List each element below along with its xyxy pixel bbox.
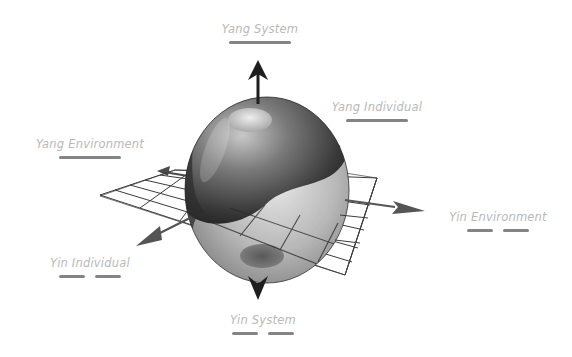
- yin-broken-line: [45, 275, 135, 278]
- label-yin-environment-text: Yin Environment: [436, 210, 560, 224]
- yang-solid-line: [28, 156, 152, 159]
- label-yang-environment: Yang Environment: [28, 137, 152, 159]
- label-yang-environment-text: Yang Environment: [28, 137, 152, 151]
- broken-bar: [467, 229, 493, 232]
- yin-broken-line: [218, 332, 308, 335]
- label-yang-system: Yang System: [208, 22, 312, 44]
- broken-bar: [59, 275, 85, 278]
- label-yang-system-text: Yang System: [208, 22, 312, 36]
- label-yin-system-text: Yin System: [218, 313, 308, 327]
- broken-bar: [95, 275, 121, 278]
- label-yin-individual-text: Yin Individual: [45, 256, 135, 270]
- label-yang-individual-text: Yang Individual: [322, 100, 432, 114]
- yang-solid-line: [208, 41, 312, 44]
- solid-bar: [346, 119, 408, 122]
- diagram-artwork: [0, 0, 572, 357]
- yin-yang-sphere: [185, 97, 352, 283]
- yang-solid-line: [322, 119, 432, 122]
- label-yin-system: Yin System: [218, 313, 308, 335]
- axis-yin-environment-arrow: [345, 200, 425, 214]
- yin-broken-line: [436, 229, 560, 232]
- label-yin-individual: Yin Individual: [45, 256, 135, 278]
- broken-bar: [232, 332, 258, 335]
- label-yang-individual: Yang Individual: [322, 100, 432, 122]
- solid-bar: [229, 41, 291, 44]
- broken-bar: [503, 229, 529, 232]
- axis-yin-individual-arrow: [136, 218, 190, 246]
- solid-bar: [59, 156, 121, 159]
- label-yin-environment: Yin Environment: [436, 210, 560, 232]
- broken-bar: [268, 332, 294, 335]
- yin-yang-sphere-diagram: Yang System Yin System Yang Individual Y…: [0, 0, 572, 357]
